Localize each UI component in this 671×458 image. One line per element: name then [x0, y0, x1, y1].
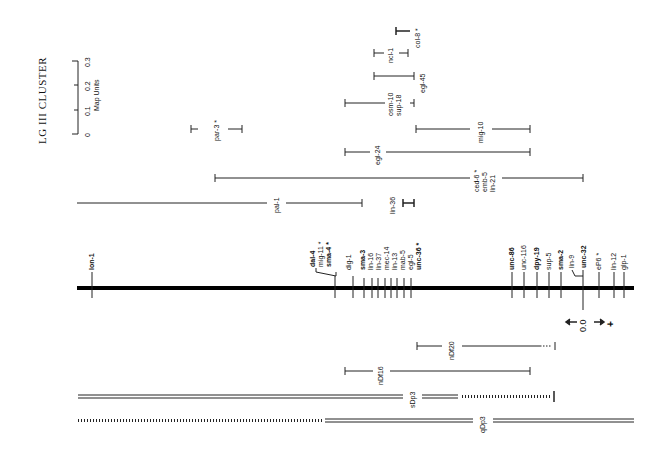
- label-lin-21: lin-21: [489, 175, 497, 192]
- map-lines: [0, 0, 671, 458]
- label-sup-18: sup-18: [395, 95, 403, 116]
- scale-tick-0.2: 0.2: [84, 81, 92, 91]
- gene-lin-9: lin-9: [568, 255, 576, 268]
- label-mig-10: mig-10: [477, 122, 485, 143]
- gene-sup-5: sup-5: [545, 252, 553, 270]
- scale-tick-0.3: 0.3: [84, 57, 92, 67]
- gene-sma-3: sma-3: [359, 250, 367, 270]
- genetic-map-figure: LG III CLUSTER 0 0.1 0.2 0.3 Map Units c…: [0, 0, 671, 458]
- interval-qDp3: [78, 419, 634, 422]
- interval-nDf16: [345, 367, 530, 375]
- interval-mig-10: [416, 125, 530, 133]
- scale-tick-0: 0: [84, 133, 92, 137]
- interval-sDp3: [78, 391, 554, 402]
- label-qDp3: qDp3: [479, 416, 487, 433]
- interval-pal-1: [77, 199, 362, 207]
- gene-unc-86: unc-86: [508, 247, 516, 270]
- interval-ced-6: [215, 174, 583, 182]
- interval-egl-45: [374, 72, 414, 80]
- gene-mec-14: mec-14: [383, 247, 391, 270]
- scale-tick-0.1: 0.1: [84, 106, 92, 116]
- plus-sign: +: [606, 321, 616, 327]
- label-pal-1: pal-1: [273, 197, 281, 213]
- gene-dal-4: dal-4: [309, 251, 317, 267]
- gene-glp-1: glp-1: [620, 254, 628, 270]
- label-par-3: par-3 *: [213, 120, 221, 141]
- gene-lon-1: lon-1: [88, 253, 96, 270]
- gene-unc-116: unc-116: [520, 245, 528, 270]
- gene-dpy-19: dpy-19: [533, 247, 541, 270]
- gene-egl-5: egl-5: [407, 254, 415, 270]
- gene-lin-12: lin-12: [610, 253, 618, 270]
- gene-lin-13: lin-13: [391, 253, 399, 270]
- label-nDf20: nDf20: [448, 341, 456, 360]
- label-nDf16: nDf16: [377, 366, 385, 385]
- gene-lin-37: lin-37: [375, 253, 383, 270]
- label-emb-5: emb-5: [481, 172, 489, 192]
- scale-label: Map Units: [93, 79, 101, 111]
- label-col-8: col-8 *: [414, 28, 422, 48]
- interval-osm-10: [345, 99, 414, 107]
- gene-eP6: eP6 *: [595, 253, 603, 270]
- interval-egl-24: [345, 148, 530, 156]
- label-sDp3: sDp3: [409, 392, 417, 408]
- gene-mab-5: mab-5: [399, 250, 407, 270]
- gene-mig-11: mig-11 *: [317, 241, 325, 267]
- interval-nDf20: [417, 342, 555, 350]
- figure-title: LG III CLUSTER: [38, 57, 46, 144]
- gene-sma-2: sma-2: [557, 250, 565, 270]
- gene-sma-4: sma-4 *: [325, 242, 333, 267]
- interval-lin-36: [403, 199, 414, 207]
- scale-bar: [72, 61, 78, 134]
- gene-lin-16: lin-16: [367, 253, 375, 270]
- label-egl-45: egl-45: [419, 74, 427, 93]
- gene-unc-36: unc-36 *: [415, 243, 423, 270]
- label-osm-10: osm-10: [387, 93, 395, 116]
- gene-unc-32: unc-32: [580, 245, 588, 268]
- label-ncl-1: ncl-1: [387, 48, 395, 63]
- interval-col-8: [396, 27, 410, 35]
- label-egl-24: egl-24: [374, 146, 382, 165]
- label-lin-36: lin-36: [389, 197, 397, 214]
- origin-label: 0.0: [578, 319, 588, 332]
- gene-dig-1: dig-1: [345, 254, 353, 270]
- label-ced-6: ced-6 *: [473, 170, 481, 192]
